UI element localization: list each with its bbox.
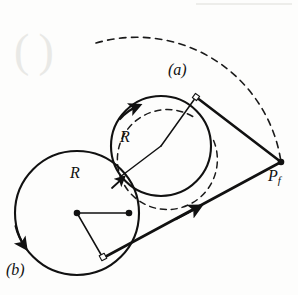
switch-point-dot: [126, 210, 133, 217]
dubins-path-diagram: [0, 0, 298, 295]
label-final-point-letter: P: [268, 167, 278, 184]
label-final-point-subscript: f: [278, 174, 281, 186]
label-radius-upper: R: [120, 129, 130, 145]
radius-line-upper-lower-branch: [120, 146, 161, 177]
label-arc-b: (b): [6, 262, 25, 278]
final-point-dot: [278, 159, 285, 166]
radius-line-lower: [77, 213, 103, 258]
label-final-point: Pf: [268, 168, 281, 186]
radius-line-upper: [161, 97, 196, 146]
figure-page: ( ): [0, 0, 298, 295]
center-dot-b: [74, 210, 81, 217]
label-arc-a: (a): [168, 62, 187, 78]
label-radius-lower: R: [70, 165, 80, 181]
lower-line-travel-arrow: [176, 207, 199, 219]
intersection-direction-arrow: [112, 178, 123, 188]
circle-b-direction-arrow: [16, 226, 25, 247]
